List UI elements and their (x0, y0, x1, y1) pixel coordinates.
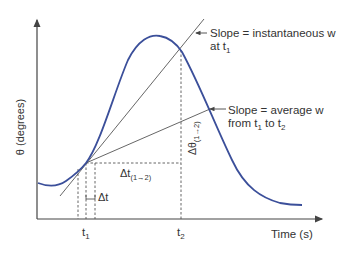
tick-label-t2: t2 (177, 226, 185, 241)
annotation-instantaneous-line1: Slope = instantaneous w (210, 27, 336, 39)
delta-t-bracket (86, 195, 95, 199)
annotation-instantaneous-line2: at t1 (210, 40, 231, 55)
angle-time-diagram: θ (degrees) Time (s) t1 t2 Slope = insta… (0, 0, 346, 254)
annotation-average-line1: Slope = average w (228, 104, 324, 116)
annotation-average-line2: from t1 to t2 (228, 117, 286, 132)
tick-label-t1: t1 (82, 226, 90, 241)
delta-t-small-label: Δt (98, 191, 108, 203)
tangent-line-instantaneous (60, 19, 204, 196)
delta-t-interval-label: Δt(1→2) (120, 167, 152, 182)
x-axis-label: Time (s) (271, 228, 313, 240)
delta-theta-label: Δθ(1→2) (186, 121, 201, 155)
y-axis-label: θ (degrees) (14, 99, 26, 155)
